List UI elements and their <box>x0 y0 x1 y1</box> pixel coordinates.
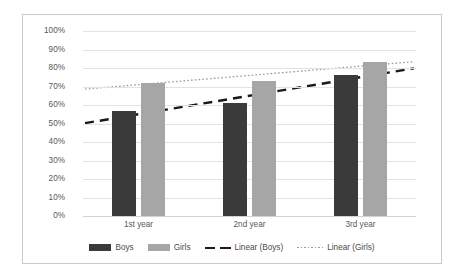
legend-label: Linear (Girls) <box>327 243 374 252</box>
bar-boys-3 <box>334 75 358 216</box>
legend-swatch-girls <box>148 244 170 251</box>
legend-label: Girls <box>174 243 191 252</box>
y-axis-tick-label: 80% <box>29 64 65 72</box>
bar-girls-2 <box>252 81 276 216</box>
x-axis-tick-label: 3rd year <box>345 221 375 229</box>
gridline <box>83 50 416 51</box>
legend-swatch-linear-boys <box>205 244 231 251</box>
y-axis-tick-label: 60% <box>29 101 65 109</box>
legend-label: Linear (Boys) <box>235 243 284 252</box>
chart-plot-wrapper: 100%90%80%70%60%50%40%30%20%10%0% BoysGi… <box>23 15 441 263</box>
plot-area <box>83 31 416 216</box>
y-axis-tick-label: 10% <box>29 193 65 201</box>
y-axis-tick-label: 30% <box>29 156 65 164</box>
chart-container: 100%90%80%70%60%50%40%30%20%10%0% BoysGi… <box>22 14 442 264</box>
legend-swatch-boys <box>89 244 111 251</box>
y-axis: 100%90%80%70%60%50%40%30%20%10%0% <box>29 15 65 263</box>
legend-swatch-linear-girls <box>297 244 323 251</box>
y-axis-tick-label: 50% <box>29 119 65 127</box>
legend-item[interactable]: Linear (Boys) <box>205 243 284 252</box>
gridline <box>83 216 416 217</box>
bar-boys-1 <box>112 111 136 216</box>
legend-item[interactable]: Girls <box>148 243 191 252</box>
gridline <box>83 31 416 32</box>
bar-girls-3 <box>363 62 387 216</box>
y-axis-tick-label: 0% <box>29 212 65 220</box>
chart-legend: BoysGirlsLinear (Boys)Linear (Girls) <box>23 243 441 252</box>
y-axis-tick-label: 70% <box>29 82 65 90</box>
y-axis-tick-label: 40% <box>29 138 65 146</box>
x-axis-tick-label: 1st year <box>124 221 153 229</box>
y-axis-tick-label: 20% <box>29 175 65 183</box>
bar-boys-2 <box>223 103 247 216</box>
legend-item[interactable]: Linear (Girls) <box>297 243 374 252</box>
y-axis-tick-label: 100% <box>29 27 65 35</box>
x-axis-tick-label: 2nd year <box>234 221 266 229</box>
bar-girls-1 <box>141 83 165 216</box>
legend-label: Boys <box>115 243 133 252</box>
y-axis-tick-label: 90% <box>29 45 65 53</box>
legend-item[interactable]: Boys <box>89 243 133 252</box>
